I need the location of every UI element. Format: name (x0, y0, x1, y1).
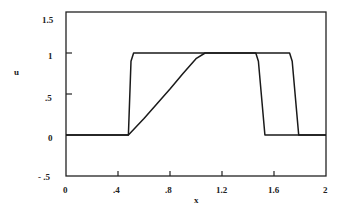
ytick-label: 1 (48, 51, 53, 61)
xtick-label: 0 (63, 185, 68, 195)
series-line-2 (66, 53, 326, 135)
ytick-label: .5 (45, 93, 52, 103)
ytick-label: - .5 (38, 172, 50, 182)
xtick-label: 2 (323, 185, 328, 195)
y-tick-labels: 1.5 1 .5 0 - .5 (38, 15, 54, 182)
x-tick-labels: 0 .4 .8 1.2 1.6 2 (63, 185, 328, 195)
ytick-label: 1.5 (42, 15, 54, 25)
xtick-label: .4 (113, 185, 120, 195)
ytick-label: 0 (48, 133, 53, 143)
xtick-label: 1.6 (268, 185, 280, 195)
series-line-1 (66, 53, 326, 135)
chart: 1.5 1 .5 0 - .5 u 0 .4 .8 1.2 1.6 2 x (0, 0, 340, 211)
xtick-label: 1.2 (216, 185, 228, 195)
x-ticks (118, 171, 274, 176)
x-axis-label: x (194, 195, 199, 205)
y-ticks (66, 53, 72, 94)
plot-frame (66, 12, 326, 176)
series-layer (66, 53, 326, 135)
xtick-label: .8 (165, 185, 172, 195)
y-axis-label: u (14, 67, 19, 77)
